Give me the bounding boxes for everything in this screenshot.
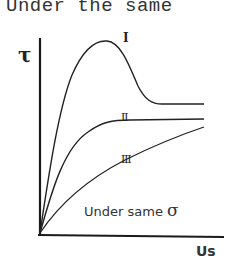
- curve-ii-label: Ⅱ: [121, 111, 128, 124]
- curve-iii-label: Ⅲ: [121, 153, 132, 166]
- annotation-text: Under same: [84, 204, 167, 219]
- y-axis-label: τ: [18, 43, 31, 67]
- curve-i-label: I: [123, 31, 129, 45]
- plot-area: τ I Ⅱ Ⅲ Under same σ Us: [0, 0, 232, 259]
- x-axis-label: Us: [196, 243, 216, 259]
- x-axis: [38, 235, 224, 237]
- condition-annotation: Under same σ: [84, 200, 179, 220]
- sigma-symbol: σ: [167, 200, 179, 220]
